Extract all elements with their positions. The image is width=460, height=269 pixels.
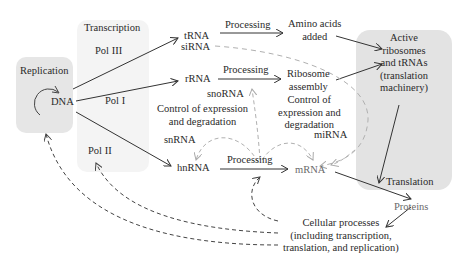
dna-label: DNA [51,96,74,109]
processing-trna-label: Processing [225,19,271,32]
snorna-dashed-arrow [252,89,260,160]
feedback-to-processing [252,177,278,221]
mirna-node: miRNA [314,129,347,142]
processing-rrna-label: Processing [223,64,269,77]
cellular-processes-node: Cellular processes (including transcript… [283,217,399,255]
sirna-node: siRNA [181,41,210,54]
ribosome-assembly-node: Ribosome assembly [287,68,330,93]
mirna-dashed-arrow-b [331,150,355,165]
pol-iii-label: Pol III [95,45,122,58]
proteins-node: Proteins [394,201,428,214]
transcription-label: Transcription [84,22,140,35]
control-left-label: Control of expression and degradation [157,103,248,128]
translation-label: Translation [386,176,433,189]
control-right-label: Control of expression and degradation [278,94,341,132]
amino-acids-node: Amino acids added [288,18,341,43]
snrna-node: snRNA [164,134,196,147]
arrow-dna-to-rrna [76,81,178,101]
pol-i-label: Pol I [105,95,125,108]
translation-machinery-label: Active ribosomes and tRNAs (translation … [362,32,446,95]
processing-hnrna-label: Processing [227,154,273,167]
arrow-machinery-to-translation [379,105,399,183]
arrow-dna-to-trna [73,38,178,89]
hnrna-node: hnRNA [177,162,210,175]
replication-label: Replication [20,65,68,78]
snorna-node: snoRNA [207,88,244,101]
pol-ii-label: Pol II [88,145,112,158]
gene-expression-diagram: Replication DNA Transcription Pol III Po… [0,0,460,269]
feedback-to-replication [46,134,278,245]
rrna-node: rRNA [185,73,211,86]
mrna-node: mRNA [295,164,325,177]
